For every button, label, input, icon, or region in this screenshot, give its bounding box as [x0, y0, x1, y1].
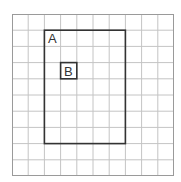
- grid-paper: [12, 14, 174, 176]
- label-a: A: [48, 32, 57, 45]
- grid-svg: [12, 14, 174, 176]
- label-b: B: [64, 65, 73, 78]
- rectangle-a: [44, 30, 125, 143]
